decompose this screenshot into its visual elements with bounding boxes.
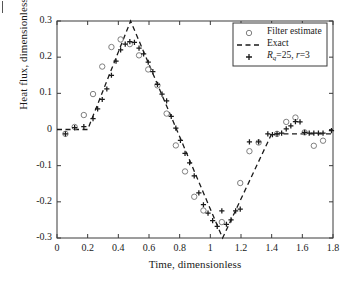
plus-marker (178, 138, 183, 143)
circle-marker (81, 112, 86, 117)
circle-marker (247, 149, 252, 154)
circle-marker (219, 219, 224, 224)
plus-marker (297, 119, 302, 124)
y-tick-label: 0 (18, 123, 52, 134)
plus-marker (81, 124, 86, 129)
plus-marker (155, 82, 160, 87)
plus-marker (238, 206, 243, 211)
circle-marker (146, 67, 151, 72)
y-tick-label: -0.3 (18, 231, 52, 242)
plus-marker (284, 126, 289, 131)
plus-marker (215, 224, 220, 229)
plus-marker (127, 39, 132, 44)
plus-marker (100, 97, 105, 102)
plus-marker (109, 73, 114, 78)
legend-label-exact: Exact (267, 38, 289, 48)
plus-marker (164, 98, 169, 103)
circle-marker (164, 111, 169, 116)
circle-marker (118, 37, 123, 42)
plus-marker (173, 125, 178, 130)
plus-marker (247, 139, 252, 144)
figure: Heat flux, dimensionless Time, dimension… (0, 0, 351, 282)
chart-canvas (0, 0, 351, 282)
y-tick-label: -0.2 (18, 195, 52, 206)
legend-label-filter-estimate: Filter estimate (267, 26, 322, 36)
plus-marker (192, 173, 197, 178)
circle-marker (90, 91, 95, 96)
plus-marker (320, 131, 325, 136)
plus-marker (187, 160, 192, 165)
plus-marker (146, 60, 151, 65)
plus-marker (104, 86, 109, 91)
plus-marker (219, 208, 224, 213)
circle-marker (192, 194, 197, 199)
circle-marker (182, 169, 187, 174)
x-tick-label: 1.8 (313, 242, 351, 253)
plus-marker (210, 218, 215, 223)
circle-marker (100, 64, 105, 69)
plus-marker (311, 131, 316, 136)
plus-marker (196, 190, 201, 195)
y-tick-label: -0.1 (18, 159, 52, 170)
circle-marker (320, 138, 325, 143)
plus-marker (123, 42, 128, 47)
circle-marker (284, 119, 289, 124)
plus-marker (201, 202, 206, 207)
plus-marker (316, 131, 321, 136)
y-tick-label: 0.2 (18, 50, 52, 61)
x-axis-label: Time, dimensionless (57, 258, 333, 270)
circle-marker (109, 44, 114, 49)
circle-marker (311, 143, 316, 148)
circle-marker (238, 180, 243, 185)
y-tick-label: 0.1 (18, 86, 52, 97)
plus-marker (228, 217, 233, 222)
circle-marker (173, 143, 178, 148)
y-tick-label: 0.3 (18, 14, 52, 25)
plus-marker (265, 131, 270, 136)
legend-label-rq: Rq=25, r=3 (267, 50, 310, 62)
circle-marker (136, 53, 141, 58)
plus-marker (288, 123, 293, 128)
plus-marker (95, 106, 100, 111)
plus-marker (90, 116, 95, 121)
circle-marker (201, 208, 206, 213)
